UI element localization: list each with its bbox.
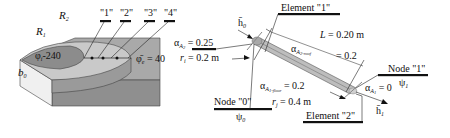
- psi-1-label: ψ1: [399, 78, 408, 89]
- r-i-label: ri = 0.2 m: [180, 53, 219, 64]
- R1-label: R1: [36, 26, 46, 38]
- psi-0-label: ψ0: [236, 112, 245, 123]
- node-0-label: Node "0": [214, 97, 251, 107]
- b0-label: b0: [18, 67, 27, 79]
- alpha-A2-roof-value: = 0.2: [336, 51, 357, 61]
- h0-label: h̄0: [238, 18, 246, 29]
- element-2-label: Element "2": [306, 111, 355, 121]
- element-1-label: Element "1": [281, 3, 330, 13]
- R2-label: R2: [59, 10, 69, 22]
- node-1-label: Node "1": [388, 64, 425, 74]
- h1-label: h̄1: [376, 106, 384, 117]
- phi-i-label: φi-240: [35, 51, 61, 62]
- r-j-label: rj = 0.4 m: [272, 97, 311, 108]
- phi-e-label: φ̄e = 40: [136, 54, 165, 65]
- point-3-label: "3": [144, 8, 157, 18]
- point-4-label: "4": [164, 8, 177, 18]
- alpha-A1-label: αA1 = 0: [365, 83, 392, 96]
- alpha-A2-label: αA2 = 0.25: [174, 38, 213, 51]
- alpha-A2-roof-label: αA2-roof: [291, 44, 311, 57]
- alpha-A1-floor-label: αA1-floor = 0.2: [260, 81, 305, 94]
- point-2-label: "2": [120, 8, 133, 18]
- L-label: L = 0.20 m: [320, 30, 364, 40]
- point-1-label: "1": [100, 8, 113, 18]
